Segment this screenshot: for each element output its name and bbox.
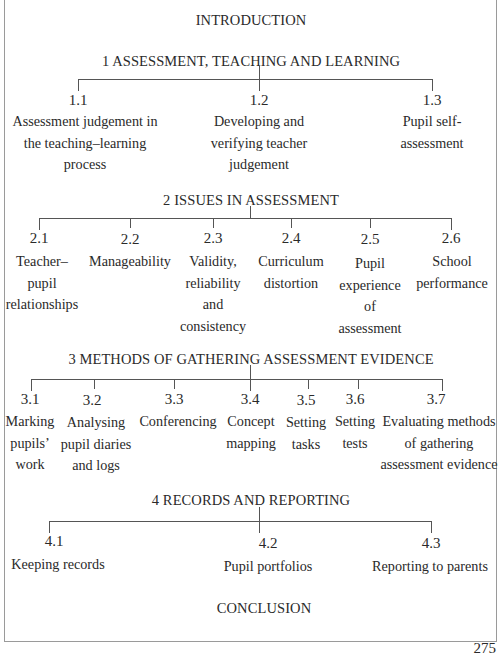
item-number: 2.2	[100, 229, 160, 250]
section-4-heading: 4 RECORDS AND REPORTING	[0, 490, 502, 511]
item-number: 4.3	[406, 533, 456, 554]
item-label: Assessment judgement in the teaching–lea…	[0, 111, 170, 176]
section-3-heading: 3 METHODS OF GATHERING ASSESSMENT EVIDEN…	[0, 349, 502, 370]
item-label: Reporting to parents	[362, 556, 498, 578]
item-label: Developing and verifying teacher judgeme…	[184, 111, 334, 176]
item-number: 3.3	[149, 389, 199, 410]
item-number: 4.2	[243, 533, 293, 554]
item-number: 2.6	[421, 228, 481, 249]
item-label: Setting tasks	[283, 412, 329, 455]
item-label: Concept mapping	[222, 411, 280, 454]
item-number: 3.2	[67, 390, 117, 411]
item-label: Conferencing	[136, 411, 220, 433]
item-number: 3.6	[330, 389, 380, 410]
item-number: 1.2	[209, 90, 309, 111]
item-label: Pupil self- assessment	[387, 111, 477, 154]
item-label: Manageability	[85, 251, 175, 273]
section-1-heading: 1 ASSESSMENT, TEACHING AND LEARNING	[0, 51, 502, 72]
item-label: Keeping records	[8, 554, 108, 576]
item-number: 4.1	[29, 531, 79, 552]
item-label: Analysing pupil diaries and logs	[58, 412, 134, 477]
item-label: School performance	[410, 251, 494, 294]
item-label: Curriculum distortion	[251, 251, 331, 294]
item-label: Setting tests	[333, 411, 377, 454]
item-number: 2.5	[340, 229, 400, 250]
item-label: Marking pupils’ work	[4, 411, 56, 476]
item-number: 1.1	[28, 90, 128, 111]
item-label: Evaluating methods of gathering assessme…	[380, 411, 498, 476]
item-number: 1.3	[382, 90, 482, 111]
item-number: 2.1	[9, 228, 69, 249]
section-2-heading: 2 ISSUES IN ASSESSMENT	[0, 190, 502, 211]
item-label: Teacher– pupil relationships	[0, 251, 84, 316]
item-label: Pupil experience of assessment	[335, 253, 405, 339]
intro-heading: INTRODUCTION	[0, 10, 502, 31]
item-number: 3.1	[5, 389, 55, 410]
page-number: 275	[474, 640, 497, 657]
item-number: 2.4	[261, 228, 321, 249]
item-number: 3.5	[281, 390, 331, 411]
item-number: 3.7	[411, 389, 461, 410]
item-number: 2.3	[183, 228, 243, 249]
conclusion-heading: CONCLUSION	[0, 598, 502, 619]
item-label: Validity, reliability and consistency	[178, 251, 248, 337]
item-label: Pupil portfolios	[208, 556, 328, 578]
item-number: 3.4	[225, 389, 275, 410]
